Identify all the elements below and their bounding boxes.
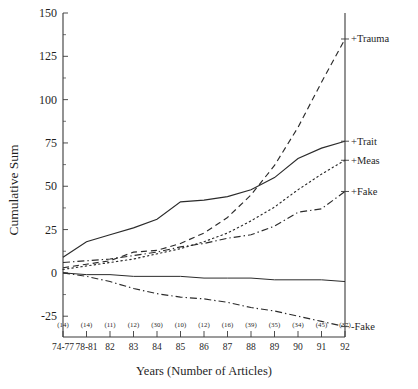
series-label-fake: +Fake bbox=[351, 186, 378, 197]
y-axis-tick-labels: -250255075100125150 bbox=[39, 6, 57, 323]
chart-canvas: -250255075100125150 74-7778-818283848586… bbox=[0, 0, 418, 389]
series-line-fake bbox=[63, 191, 345, 262]
x-article-count-86: (12) bbox=[198, 321, 209, 329]
series-label-fake: -Fake bbox=[351, 321, 375, 332]
y-tick-label--25: -25 bbox=[41, 309, 57, 323]
x-tick-label-84: 84 bbox=[152, 342, 162, 352]
series-line-trauma bbox=[63, 39, 345, 268]
series-paths-group bbox=[63, 39, 345, 327]
y-tick-label-100: 100 bbox=[39, 93, 57, 107]
x-article-count-88: (39) bbox=[245, 321, 256, 329]
series-label-trauma: +Trauma bbox=[351, 33, 390, 44]
x-tick-label-88: 88 bbox=[246, 342, 256, 352]
series-line-baseline bbox=[63, 273, 345, 282]
cumulative-sum-line-chart: -250255075100125150 74-7778-818283848586… bbox=[0, 0, 418, 389]
series-line-trait bbox=[63, 141, 345, 257]
x-tick-label-87: 87 bbox=[223, 342, 233, 352]
x-axis-tick-labels: 74-7778-818283848586878889909192 bbox=[52, 342, 350, 352]
y-tick-label-50: 50 bbox=[45, 179, 57, 193]
x-article-count-91: (45) bbox=[316, 321, 327, 329]
x-tick-label-91: 91 bbox=[317, 342, 327, 352]
x-article-count-83: (12) bbox=[128, 321, 139, 329]
x-tick-label-74-77: 74-77 bbox=[52, 342, 74, 352]
y-axis-title: Cumulative Sum bbox=[6, 144, 21, 236]
x-article-count-87: (16) bbox=[222, 321, 233, 329]
series-label-trait: +Trait bbox=[351, 136, 377, 147]
y-tick-label-75: 75 bbox=[45, 136, 57, 150]
x-tick-label-83: 83 bbox=[129, 342, 139, 352]
x-article-count-78-81: (14) bbox=[81, 321, 92, 329]
x-article-count-85: (10) bbox=[175, 321, 186, 329]
x-tick-label-85: 85 bbox=[176, 342, 186, 352]
y-tick-label-150: 150 bbox=[39, 6, 57, 20]
x-article-count-74-77: (14) bbox=[57, 321, 68, 329]
x-tick-label-90: 90 bbox=[293, 342, 303, 352]
y-tick-label-25: 25 bbox=[45, 223, 57, 237]
x-tick-label-82: 82 bbox=[105, 342, 115, 352]
y-tick-label-0: 0 bbox=[51, 266, 57, 280]
series-label-meas: +Meas bbox=[351, 155, 380, 166]
y-tick-label-125: 125 bbox=[39, 49, 57, 63]
x-tick-label-78-81: 78-81 bbox=[75, 342, 97, 352]
x-tick-label-89: 89 bbox=[270, 342, 280, 352]
x-article-count-82: (11) bbox=[104, 321, 115, 329]
x-tick-label-86: 86 bbox=[199, 342, 209, 352]
x-tick-label-92: 92 bbox=[340, 342, 350, 352]
x-axis-title: Years (Number of Articles) bbox=[136, 364, 272, 378]
series-end-labels-group: +Trauma+Trait+Meas+Fake-Fake bbox=[341, 33, 390, 332]
x-axis-article-count-labels: (14)(14)(11)(12)(30)(10)(12)(16)(39)(35)… bbox=[57, 321, 350, 329]
x-article-count-90: (34) bbox=[292, 321, 303, 329]
x-article-count-84: (30) bbox=[151, 321, 162, 329]
x-article-count-89: (35) bbox=[269, 321, 280, 329]
x-axis-ticks bbox=[63, 331, 345, 337]
series-line-meas bbox=[63, 160, 345, 269]
series-line-fake bbox=[63, 273, 345, 327]
x-article-count-92: (37) bbox=[339, 321, 350, 329]
